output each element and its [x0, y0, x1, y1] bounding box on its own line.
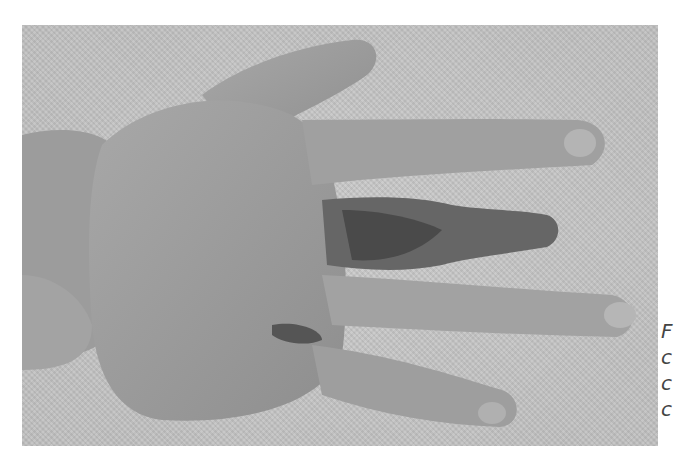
caption-char: c	[661, 396, 678, 422]
caption-char: c	[661, 370, 678, 396]
caption-char: c	[661, 344, 678, 370]
caption-char: F	[661, 318, 678, 344]
clinical-photo	[22, 25, 658, 446]
figure-caption-clipped: F c c c	[661, 318, 678, 422]
hand-illustration	[22, 25, 658, 446]
